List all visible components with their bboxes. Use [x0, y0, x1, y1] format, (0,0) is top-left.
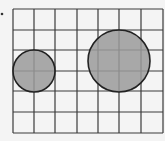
small-circle — [13, 50, 55, 92]
large-circle — [88, 30, 150, 92]
grid-diagram — [0, 0, 165, 141]
bullet-dot — [1, 13, 4, 16]
